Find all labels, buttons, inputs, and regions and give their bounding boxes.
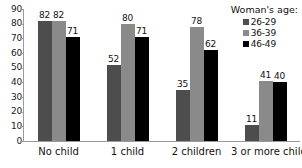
y-tick-mark: [20, 141, 24, 142]
x-axis-line: [23, 141, 300, 142]
bar-value-label: 52: [108, 55, 119, 64]
bar-value-label: 40: [274, 72, 285, 81]
y-tick-mark: [20, 97, 24, 98]
y-tick-mark: [20, 38, 24, 39]
y-tick-mark: [20, 9, 24, 10]
bar[interactable]: 82: [52, 21, 66, 141]
bar-value-label: 82: [53, 11, 64, 20]
y-tick-label: 80: [0, 19, 22, 28]
x-axis-category-label: 1 child: [93, 146, 162, 158]
bar-value-label: 62: [205, 40, 216, 49]
bar-value-label: 71: [67, 27, 78, 36]
bar-group: 357862: [162, 9, 231, 141]
x-axis-labels: No child1 child2 children3 or more child…: [24, 146, 300, 166]
bar-value-label: 71: [136, 27, 147, 36]
bar[interactable]: 41: [259, 81, 273, 141]
y-tick-mark: [20, 82, 24, 83]
y-tick-label: 40: [0, 78, 22, 87]
bar-value-label: 35: [177, 80, 188, 89]
legend-item[interactable]: 46-49: [243, 38, 298, 49]
legend-label: 46-49: [251, 39, 276, 49]
legend-label: 36-39: [251, 28, 276, 38]
bar-value-label: 78: [191, 17, 202, 26]
legend-swatch-icon: [243, 41, 249, 47]
x-axis-category-label: No child: [24, 146, 93, 158]
y-tick-label: 10: [0, 122, 22, 131]
x-axis-category-label: 3 or more children: [231, 146, 300, 158]
bar-chart: 0102030405060708090 82827152807135786211…: [0, 0, 302, 168]
bar-value-label: 41: [260, 71, 271, 80]
y-tick-label: 60: [0, 49, 22, 58]
legend: Woman's age: 26-2936-3946-49: [229, 4, 298, 49]
y-tick-mark: [20, 53, 24, 54]
y-tick-label: 50: [0, 63, 22, 72]
y-axis: 0102030405060708090: [0, 0, 22, 146]
bar[interactable]: 71: [66, 37, 80, 141]
legend-items: 26-2936-3946-49: [229, 16, 298, 49]
y-tick-mark: [20, 112, 24, 113]
legend-label: 26-29: [251, 17, 276, 27]
y-tick-label: 90: [0, 5, 22, 14]
bar-value-label: 80: [122, 14, 133, 23]
legend-item[interactable]: 36-39: [243, 27, 298, 38]
legend-title: Woman's age:: [229, 4, 298, 15]
bar[interactable]: 35: [176, 90, 190, 141]
legend-swatch-icon: [243, 19, 249, 25]
bar[interactable]: 71: [135, 37, 149, 141]
bar[interactable]: 80: [121, 24, 135, 141]
bar-value-label: 82: [39, 11, 50, 20]
legend-item[interactable]: 26-29: [243, 16, 298, 27]
y-tick-mark: [20, 24, 24, 25]
y-tick-label: 0: [0, 137, 22, 146]
bar-group: 528071: [93, 9, 162, 141]
y-tick-mark: [20, 126, 24, 127]
bar[interactable]: 82: [38, 21, 52, 141]
y-tick-label: 30: [0, 93, 22, 102]
y-tick-label: 70: [0, 34, 22, 43]
legend-swatch-icon: [243, 30, 249, 36]
bar[interactable]: 78: [190, 27, 204, 141]
bar-group: 828271: [24, 9, 93, 141]
bar-value-label: 11: [246, 115, 257, 124]
bar[interactable]: 11: [245, 125, 259, 141]
bar[interactable]: 52: [107, 65, 121, 141]
y-tick-mark: [20, 68, 24, 69]
bar[interactable]: 62: [204, 50, 218, 141]
bar[interactable]: 40: [273, 82, 287, 141]
x-axis-category-label: 2 children: [162, 146, 231, 158]
y-tick-label: 20: [0, 107, 22, 116]
